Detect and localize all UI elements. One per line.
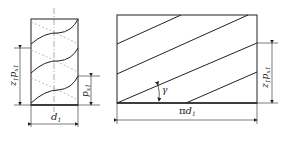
cylinder-outline	[31, 19, 78, 105]
helix-lines	[117, 15, 257, 103]
lead-angle-label: γ	[162, 85, 168, 95]
circumference-label: πd1	[179, 105, 196, 117]
lead-height-label: z1px1	[260, 66, 271, 89]
pitch-label: px1	[80, 84, 91, 97]
worm-helix-diagram: z1px1 px1 d1 γ πd1	[0, 0, 283, 148]
development-outline	[117, 15, 257, 103]
height-label: z1px1	[8, 64, 19, 87]
thread-lines	[31, 19, 78, 103]
diameter-label: d1	[51, 111, 61, 123]
developed-helix-view: γ πd1 z1px1	[117, 15, 278, 124]
cylinder-view: z1px1 px1 d1	[8, 8, 100, 127]
lead-angle-arc	[158, 85, 159, 101]
